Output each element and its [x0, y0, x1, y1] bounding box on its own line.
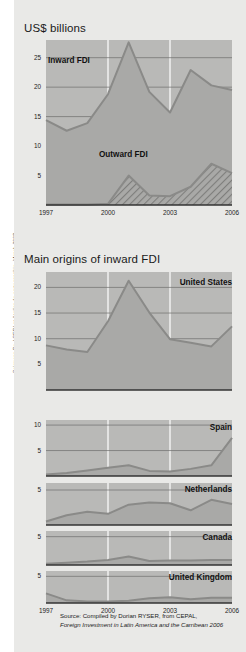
series-label-united-states: United States	[180, 278, 232, 287]
y-axis-tick-label: 20	[25, 83, 41, 90]
x-axis-tick-label: 2000	[93, 607, 123, 614]
x-axis-tick-label: 2006	[217, 209, 246, 216]
y-axis-tick-label: 20	[25, 283, 41, 290]
y-axis-tick-label: 5	[25, 172, 41, 179]
y-axis-tick-label: 15	[25, 309, 41, 316]
y-axis-tick-label: 25	[25, 54, 41, 61]
panel-area: US$ billions Main origins of inward FDI …	[14, 0, 246, 652]
y-axis-tick-label: 10	[25, 335, 41, 342]
x-axis-tick-label: 1997	[31, 607, 61, 614]
y-axis-tick-label: 5	[25, 572, 41, 579]
y-axis-tick-label: 10	[25, 142, 41, 149]
credit-strip: Sciences Po / CERI et Atelier de cartogr…	[0, 0, 14, 652]
series-label-inward-fdi: Inward FDI	[48, 56, 90, 65]
chart-svg	[46, 420, 232, 476]
x-axis-tick-label: 1997	[31, 209, 61, 216]
infographic-page: Sciences Po / CERI et Atelier de cartogr…	[0, 0, 246, 652]
series-label-united-kingdom: United Kingdom	[169, 573, 232, 582]
source-note: Source: Compiled by Dorian RYSER, from C…	[60, 612, 246, 630]
y-axis-tick-label: 5	[25, 360, 41, 367]
y-axis-tick-label: 5	[25, 533, 41, 540]
series-label-outward-fdi: Outward FDI	[99, 150, 148, 159]
source-line-2: Foreign Investment in Latin America and …	[60, 621, 246, 630]
y-axis-tick-label: 5	[25, 447, 41, 454]
chart-spain	[46, 420, 232, 476]
y-axis-tick-label: 10	[25, 421, 41, 428]
x-axis-tick-label: 2003	[155, 607, 185, 614]
x-axis-tick-label: 2006	[217, 607, 246, 614]
chart-united-states	[46, 272, 232, 390]
y-axis-tick-label: 5	[25, 486, 41, 493]
y-axis-tick-label: 15	[25, 113, 41, 120]
x-axis-tick-label: 2000	[93, 209, 123, 216]
page-title-origins: Main origins of inward FDI	[24, 253, 160, 265]
page-title-main: US$ billions	[24, 22, 86, 34]
series-label-canada: Canada	[202, 533, 232, 542]
chart-svg	[46, 272, 232, 390]
x-axis-tick-label: 2003	[155, 209, 185, 216]
series-label-netherlands: Netherlands	[185, 485, 232, 494]
series-label-spain: Spain	[210, 423, 232, 432]
